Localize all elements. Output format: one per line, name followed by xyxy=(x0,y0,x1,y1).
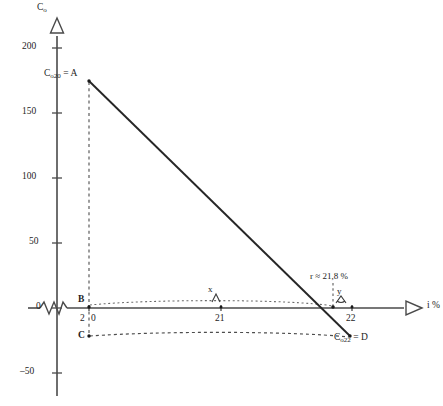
point-b-label: B xyxy=(78,295,84,305)
y-tick-label-150: 150 xyxy=(22,107,36,117)
x-axis-arrowhead xyxy=(406,301,422,315)
point-d-eq: = D xyxy=(353,332,368,342)
point-a-eq: = A xyxy=(63,68,77,78)
chart-canvas xyxy=(0,0,443,406)
y-axis-title-sub: o xyxy=(43,6,47,14)
point-a-marker xyxy=(87,79,90,82)
point-c-marker xyxy=(87,334,90,337)
tick-22-marker xyxy=(351,306,354,309)
tick-21-marker xyxy=(220,306,223,309)
y-axis-title: Co xyxy=(37,3,47,14)
point-a-sub: o20 xyxy=(50,72,61,80)
y-axis-arrowhead xyxy=(51,18,64,33)
point-b-marker xyxy=(87,305,90,308)
point-d-sub: o22 xyxy=(340,336,351,344)
dashed-segment-cd xyxy=(90,332,349,337)
point-d-label: Co22 = D xyxy=(334,333,368,344)
y-tick-label-50: 50 xyxy=(29,237,39,247)
y-tick-label-100: 100 xyxy=(22,172,36,182)
interpolation-chart: Co i % 200 150 100 50 0 –50 2 0 21 22 Co… xyxy=(0,0,443,406)
segment-y-label: y xyxy=(337,287,342,296)
x-tick-label-21: 21 xyxy=(215,314,225,324)
x-tick-label-22: 22 xyxy=(346,314,356,324)
x-tick-label-20-left: 2 xyxy=(80,314,85,324)
root-marker xyxy=(331,305,335,309)
segment-x-label: x xyxy=(208,285,213,294)
x-tick-label-20-right: 0 xyxy=(91,314,96,324)
root-annotation: r ≈ 21,8 % xyxy=(310,272,348,281)
y-tick-label-200: 200 xyxy=(22,42,36,52)
x-axis xyxy=(28,301,422,315)
point-c-label: C xyxy=(78,331,85,341)
brace-y-arc xyxy=(337,301,345,303)
dashed-segment-x xyxy=(90,301,333,306)
x-axis-title: i % xyxy=(427,301,440,311)
y-tick-label-neg50: –50 xyxy=(20,367,34,377)
secant-line xyxy=(89,81,350,336)
y-tick-label-0: 0 xyxy=(36,302,41,312)
point-a-label: Co20 = A xyxy=(44,69,77,80)
